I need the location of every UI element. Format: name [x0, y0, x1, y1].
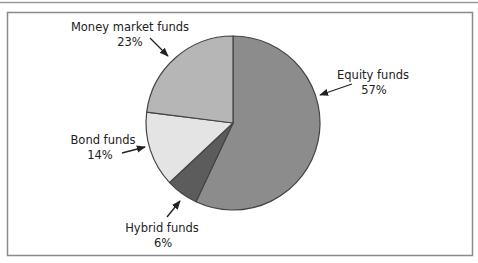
- slice-value-hybrid: 6%: [154, 236, 172, 250]
- slice-value-equity: 57%: [361, 83, 387, 97]
- slice-value-money-market: 23%: [117, 35, 143, 49]
- pie-chart: Money market funds 23% Equity funds 57% …: [0, 0, 478, 263]
- slice-value-bond: 14%: [87, 148, 113, 162]
- slice-label-hybrid: Hybrid funds: [125, 221, 199, 235]
- pie-slices: [146, 36, 320, 210]
- slice-label-money-market: Money market funds: [71, 20, 189, 34]
- slice-label-bond: Bond funds: [70, 133, 135, 147]
- slice-label-equity: Equity funds: [337, 68, 409, 82]
